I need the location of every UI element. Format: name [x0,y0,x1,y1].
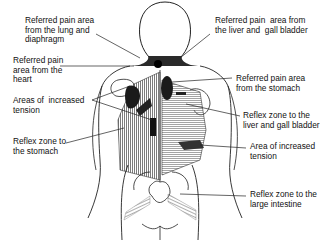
neck-spot [154,60,162,68]
label-heart: Referred pain area from the heart [13,56,63,85]
hip-left-outline [121,165,128,240]
label-lung-diaphragm: Referred pain area from the lung and dia… [25,16,94,45]
leader-stomach-reflex [66,128,124,143]
leader-lung [96,34,140,58]
leader-liver-pain [180,34,210,58]
neck-shade [130,56,200,66]
sacrum [149,181,170,202]
hip-right-outline [192,165,199,240]
label-tension-right: Area of increased tension [250,142,315,161]
intestine-reflex-left [124,196,150,220]
label-intestine-reflex: Reflex zone to the large intestine [250,190,317,209]
right-buttock-curve [172,172,188,190]
stomach-pain-area [161,76,173,100]
label-stomach-pain: Referred pain area from the stomach [236,74,305,93]
left-arm-outline [93,86,102,170]
left-tension-area [150,118,156,136]
leader-intestine [180,194,246,196]
label-liver-gallbladder: Referred pain area from the liver and ga… [215,16,308,35]
right-small-tension [176,92,186,95]
leader-stomach-pain [172,78,232,82]
intestine-reflex-right [168,194,196,220]
label-tension-left: Areas of increased tension [13,96,84,115]
label-stomach-reflex: Reflex zone to the stomach [13,137,66,156]
head-outline [139,2,190,58]
right-arm-outline [228,86,237,170]
leader-tension-right [200,145,246,148]
label-liver-reflex: Reflex zone to the liver and gall bladde… [243,111,320,130]
